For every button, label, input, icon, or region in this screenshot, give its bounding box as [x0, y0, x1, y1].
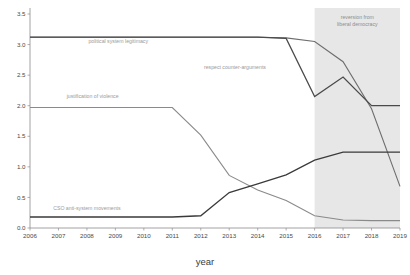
y-tick-label: 1.0	[17, 163, 26, 170]
x-tick-label: 2019	[393, 232, 407, 239]
y-tick-label: 0.5	[17, 194, 26, 201]
x-tick-label: 2014	[251, 232, 265, 239]
x-tick-label: 2006	[23, 232, 37, 239]
series-label-respect-counter-arguments: respect counter-arguments	[204, 64, 266, 70]
x-tick-label: 2012	[194, 232, 208, 239]
x-tick-label: 2010	[137, 232, 151, 239]
series-label-political-system-legitimacy: political system legitimacy	[88, 38, 148, 44]
x-tick-label: 2009	[109, 232, 123, 239]
reversion-shading	[315, 8, 400, 228]
reversion-annotation-line2: liberal democracy	[337, 21, 378, 27]
series-label-cso-anti-system-movements: CSO anti-system movements	[53, 205, 121, 211]
reversion-shaded-band	[315, 8, 400, 228]
x-tick-label: 2017	[336, 232, 350, 239]
annotations: reversion fromliberal democracy	[337, 14, 378, 27]
series-label-justification-of-violence: justification of violence	[66, 93, 119, 99]
y-tick-label: 2.0	[17, 102, 26, 109]
x-axis-title: year	[196, 256, 214, 267]
series-labels: political system legitimacyrespect count…	[53, 38, 266, 210]
y-tick-label: 0.0	[17, 224, 26, 231]
y-tick-label: 2.5	[17, 71, 26, 78]
y-tick-label: 1.5	[17, 132, 26, 139]
y-tick-label: 3.5	[17, 10, 26, 17]
x-tick-label: 2008	[80, 232, 94, 239]
y-tick-label: 3.0	[17, 41, 26, 48]
line-chart: 0.00.51.01.52.02.53.03.52006200720082009…	[0, 0, 410, 275]
chart-container: 0.00.51.01.52.02.53.03.52006200720082009…	[0, 0, 410, 275]
x-tick-label: 2007	[52, 232, 66, 239]
x-tick-label: 2011	[166, 232, 180, 239]
x-tick-label: 2013	[222, 232, 236, 239]
x-tick-label: 2015	[279, 232, 293, 239]
x-tick-label: 2016	[308, 232, 322, 239]
reversion-annotation-line1: reversion from	[341, 14, 374, 20]
x-tick-label: 2018	[365, 232, 379, 239]
